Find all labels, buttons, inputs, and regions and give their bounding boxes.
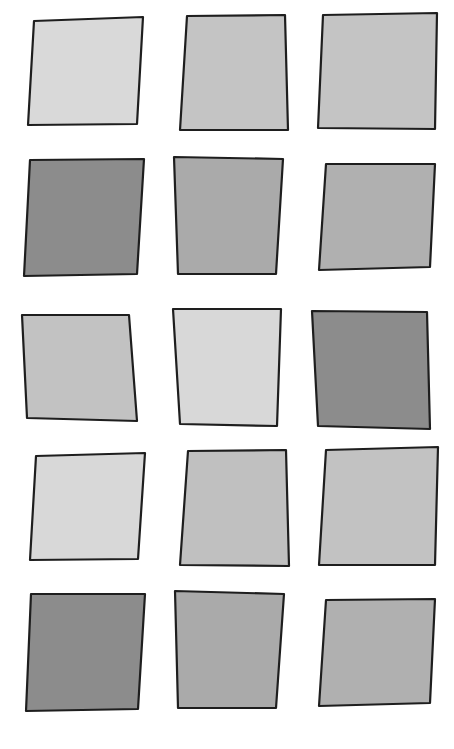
square-r3-c3 bbox=[312, 311, 430, 429]
square-r1-c2 bbox=[180, 15, 288, 130]
sketch-canvas bbox=[0, 0, 454, 749]
square-r1-c1 bbox=[28, 17, 143, 125]
square-r3-c1 bbox=[22, 315, 137, 421]
square-r5-c3 bbox=[319, 599, 435, 706]
square-r2-c3 bbox=[319, 164, 435, 270]
square-r2-c1 bbox=[24, 159, 144, 276]
square-r3-c2 bbox=[173, 309, 281, 426]
square-r4-c2 bbox=[180, 450, 289, 566]
square-r4-c1 bbox=[30, 453, 145, 560]
square-r5-c2 bbox=[175, 591, 284, 708]
square-r1-c3 bbox=[318, 13, 437, 129]
square-r5-c1 bbox=[26, 594, 145, 711]
square-r4-c3 bbox=[319, 447, 438, 565]
square-r2-c2 bbox=[174, 157, 283, 274]
